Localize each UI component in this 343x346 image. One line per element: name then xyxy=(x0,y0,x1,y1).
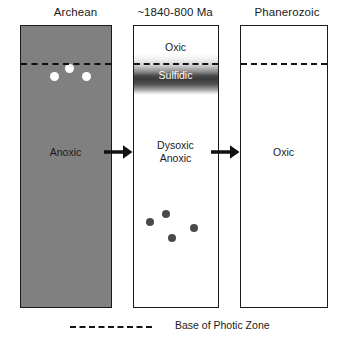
panel-phanerozoic: Oxic xyxy=(240,25,328,308)
dark-dot xyxy=(146,218,154,226)
zone-label-dysoxic: Dysoxic xyxy=(134,139,217,152)
photic-zone-line-archean xyxy=(21,63,111,65)
arrow-archean-to-proterozoic xyxy=(104,143,133,161)
zone-label-anoxic-archean: Anoxic xyxy=(21,146,110,159)
dark-dot xyxy=(162,210,170,218)
panel-proterozoic: Oxic Sulfidic Dysoxic Anoxic xyxy=(133,25,219,308)
column-title-phanerozoic: Phanerozoic xyxy=(235,6,339,18)
zone-label-anoxic-proterozoic: Anoxic xyxy=(134,152,217,165)
panel-archean: Anoxic xyxy=(20,25,112,308)
column-title-proterozoic: ~1840-800 Ma xyxy=(127,6,223,18)
dark-dot xyxy=(190,224,198,232)
ocean-redox-evolution-figure: Archean ~1840-800 Ma Phanerozoic Anoxic … xyxy=(0,0,343,346)
column-title-archean: Archean xyxy=(18,6,133,18)
photic-zone-line-proterozoic xyxy=(134,63,218,65)
zone-label-oxic-phanerozoic: Oxic xyxy=(241,146,326,159)
arrow-proterozoic-to-phanerozoic xyxy=(211,143,240,161)
legend-label-base-of-photic-zone: Base of Photic Zone xyxy=(175,319,270,331)
zone-label-sulfidic: Sulfidic xyxy=(134,69,217,82)
dark-dot xyxy=(168,234,176,242)
white-dot xyxy=(50,72,59,81)
white-dot xyxy=(82,72,91,81)
legend-dash-sample xyxy=(70,326,152,328)
photic-zone-line-phanerozoic xyxy=(241,63,327,65)
